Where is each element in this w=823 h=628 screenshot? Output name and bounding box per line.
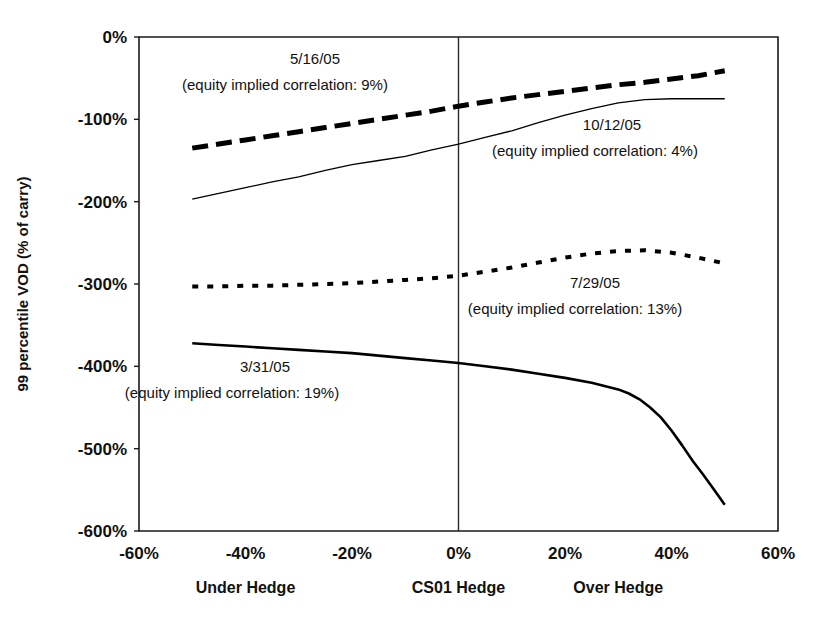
series-annotation-date: 10/12/05 xyxy=(583,116,641,133)
x-axis-region-label: Under Hedge xyxy=(196,579,296,596)
series-annotation-correlation: (equity implied correlation: 4%) xyxy=(492,142,698,159)
y-tick-label: -400% xyxy=(78,357,127,376)
y-axis-title: 99 percentile VOD (% of carry) xyxy=(14,176,31,391)
x-tick-label: -60% xyxy=(119,544,159,563)
series-annotation-date: 7/29/05 xyxy=(570,274,620,291)
series-annotation-correlation: (equity implied correlation: 19%) xyxy=(125,384,339,401)
y-tick-label: 0% xyxy=(102,28,127,47)
x-tick-label: -40% xyxy=(226,544,266,563)
x-tick-label: -20% xyxy=(332,544,372,563)
series-annotation-correlation: (equity implied correlation: 13%) xyxy=(468,300,682,317)
y-tick-label: -600% xyxy=(78,522,127,541)
series-annotation-correlation: (equity implied correlation: 9%) xyxy=(182,76,388,93)
y-axis-title-label: 99 percentile VOD (% of carry) xyxy=(14,176,31,391)
x-axis-region-label: CS01 Hedge xyxy=(412,579,505,596)
x-tick-label: 40% xyxy=(654,544,688,563)
x-axis-region-labels: Under HedgeCS01 HedgeOver Hedge xyxy=(196,579,664,596)
chart-container: 99 percentile VOD (% of carry) 0%-100%-2… xyxy=(0,0,823,628)
x-tick-label: 20% xyxy=(548,544,582,563)
y-tick-label: -100% xyxy=(78,110,127,129)
series-annotation-date: 3/31/05 xyxy=(240,358,290,375)
y-tick-label: -200% xyxy=(78,193,127,212)
x-axis-region-label: Over Hedge xyxy=(573,579,663,596)
x-tick-label: 0% xyxy=(446,544,471,563)
x-tick-label: 60% xyxy=(761,544,795,563)
y-tick-label: -500% xyxy=(78,440,127,459)
series-annotation-date: 5/16/05 xyxy=(290,50,340,67)
y-tick-label: -300% xyxy=(78,275,127,294)
chart-figure: 99 percentile VOD (% of carry) 0%-100%-2… xyxy=(0,0,823,628)
